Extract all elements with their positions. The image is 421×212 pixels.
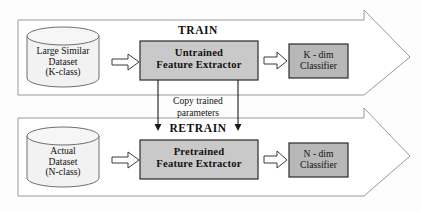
retrain-dataset-line3: (N-class) xyxy=(45,166,80,177)
train-dataset-line2: Dataset xyxy=(49,56,78,67)
pretrained-extractor-line2: Feature Extractor xyxy=(156,158,241,169)
n-dim-classifier-line1: N - dim xyxy=(304,148,334,159)
untrained-feature-extractor-label: UntrainedFeature Extractor xyxy=(140,47,258,71)
k-dim-classifier-label: K - dimClassifier xyxy=(289,50,348,71)
k-dim-classifier-line1: K - dim xyxy=(304,49,334,60)
train-dataset-line3: (K-class) xyxy=(45,66,80,77)
retrain-dataset-line2: Dataset xyxy=(49,156,78,167)
train-band-title: TRAIN xyxy=(158,24,238,37)
train-dataset-label: Large SimilarDataset(K-class) xyxy=(19,46,107,78)
n-dim-classifier-line2: Classifier xyxy=(300,159,337,170)
copy-parameters-label: Copy trainedparameters xyxy=(158,95,238,118)
transfer-learning-diagram: TRAIN Large SimilarDataset(K-class) Untr… xyxy=(0,0,421,212)
retrain-dataset-label: ActualDataset(N-class) xyxy=(19,146,107,178)
copy-parameters-line2: parameters xyxy=(177,107,219,118)
untrained-extractor-line2: Feature Extractor xyxy=(156,59,241,70)
pretrained-feature-extractor-label: PretrainedFeature Extractor xyxy=(140,146,258,170)
pretrained-extractor-line1: Pretrained xyxy=(174,146,225,157)
n-dim-classifier-label: N - dimClassifier xyxy=(289,149,348,170)
retrain-dataset-line1: Actual xyxy=(50,145,76,156)
copy-parameters-line1: Copy trained xyxy=(173,95,223,106)
k-dim-classifier-line2: Classifier xyxy=(300,60,337,71)
retrain-band-title: RETRAIN xyxy=(158,122,238,135)
train-dataset-line1: Large Similar xyxy=(37,45,90,56)
untrained-extractor-line1: Untrained xyxy=(175,47,223,58)
